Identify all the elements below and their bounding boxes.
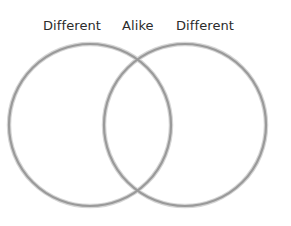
label-right-different: Different <box>176 18 234 34</box>
left-circle <box>9 44 171 206</box>
venn-diagram: Different Alike Different <box>0 0 291 226</box>
label-left-different: Different <box>43 18 101 34</box>
right-circle <box>104 44 266 206</box>
label-alike: Alike <box>122 18 154 34</box>
